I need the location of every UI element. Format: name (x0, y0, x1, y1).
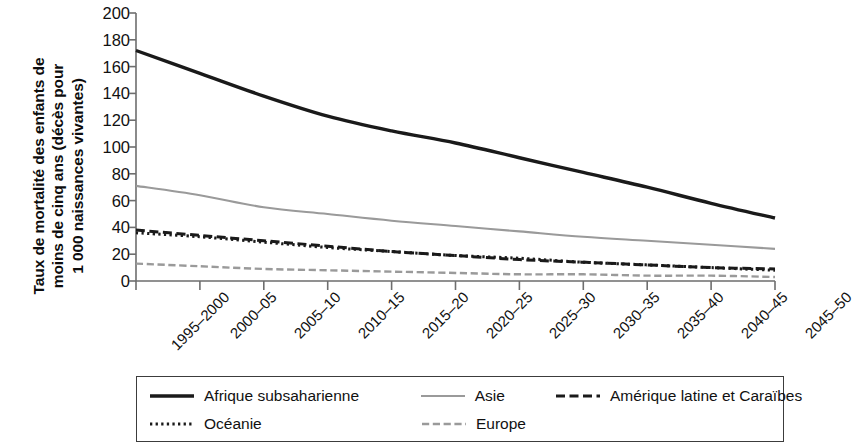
y-axis-tick-labels: 200180160140120100806040200 (84, 13, 130, 281)
y-axis-tick-label: 160 (84, 58, 130, 75)
legend-item[interactable]: Asie (420, 388, 555, 404)
legend-item[interactable]: Afrique subsaharienne (149, 388, 420, 404)
x-axis-tick-label: 1995–2000 (168, 289, 232, 353)
y-axis-tick-label: 60 (84, 192, 130, 209)
plot-area (136, 13, 775, 281)
y-axis-tick-label: 120 (84, 112, 130, 129)
y-axis-tick-label: 80 (84, 166, 130, 183)
legend-label: Afrique subsaharienne (204, 388, 359, 404)
y-axis-tick-label: 140 (84, 85, 130, 102)
legend-line-swatch-icon (149, 389, 195, 403)
legend-label: Océanie (204, 416, 262, 432)
y-axis-tick-label: 200 (84, 5, 130, 22)
x-axis-tick-label: 2020–25 (483, 289, 535, 341)
series-line-3 (136, 233, 775, 271)
legend: Afrique subsaharienneAsieAmérique latine… (136, 376, 784, 442)
legend-line-swatch-icon (420, 389, 466, 403)
x-axis-tick-label: 2005–10 (291, 289, 343, 341)
x-axis-tick-label: 2030–35 (610, 289, 662, 341)
legend-label: Europe (476, 416, 526, 432)
legend-line-swatch-icon (149, 417, 195, 431)
legend-line-swatch-icon (421, 417, 467, 431)
legend-line-swatch-icon (555, 389, 601, 403)
y-axis-tick-label: 40 (84, 219, 130, 236)
legend-row: OcéanieEurope (149, 410, 783, 438)
legend-label: Asie (475, 388, 505, 404)
x-axis-tick-label: 2000–05 (227, 289, 279, 341)
y-axis-tick-label: 0 (84, 273, 130, 290)
legend-item[interactable]: Océanie (149, 416, 421, 432)
x-axis-tick-label: 2010–15 (355, 289, 407, 341)
x-axis-tick-label: 2035–40 (674, 289, 726, 341)
y-axis-tick-label: 100 (84, 139, 130, 156)
legend-label: Amérique latine et Caraïbes (610, 388, 802, 404)
x-axis-tick-label: 2045–50 (802, 289, 854, 341)
x-axis-tick-label: 2040–45 (738, 289, 790, 341)
y-axis-tick-label: 20 (84, 246, 130, 263)
x-axis-tick-labels: 1995–20002000–052005–102010–152015–20202… (136, 281, 775, 371)
series-line-0 (136, 51, 775, 219)
x-axis-tick-label: 2025–30 (546, 289, 598, 341)
x-axis-tick-label: 2015–20 (419, 289, 471, 341)
plot-svg (136, 13, 775, 281)
legend-row: Afrique subsaharienneAsieAmérique latine… (149, 382, 783, 410)
series-line-2 (136, 230, 775, 269)
legend-item[interactable]: Europe (421, 416, 557, 432)
y-axis-tick-label: 180 (84, 32, 130, 49)
legend-item[interactable]: Amérique latine et Caraïbes (555, 388, 783, 404)
y-axis-title: Taux de mortalité des enfants de moins d… (30, 26, 86, 326)
